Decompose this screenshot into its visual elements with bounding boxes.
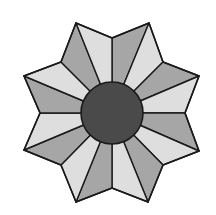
star-diagram <box>0 0 216 215</box>
star-figure <box>0 0 216 215</box>
center-circle <box>81 82 143 144</box>
